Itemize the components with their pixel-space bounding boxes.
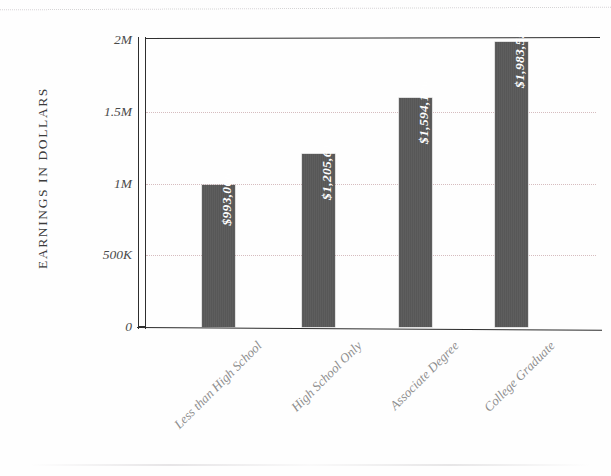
bar-value-wrap: $993,066 — [202, 185, 235, 328]
bar-college-graduate[interactable]: $1,983,554 — [495, 42, 528, 327]
bar-value-wrap: $1,205,617 — [302, 154, 335, 327]
gridline-1500k — [146, 112, 596, 113]
bar-high-school-only[interactable]: $1,205,617 — [302, 154, 335, 327]
bar-value-wrap: $1,983,554 — [495, 42, 528, 327]
bar-value-label: $1,594,126 — [416, 80, 432, 144]
page-scan-smudge — [30, 464, 590, 466]
bar-value-label: $1,205,617 — [319, 136, 335, 200]
y-axis-tick-labels: 2M 1.5M 1M 500K 0 — [42, 40, 132, 327]
bar-value-label: $1,983,554 — [512, 24, 528, 88]
y-tick-label: 1M — [52, 176, 132, 192]
bar-associate-degree[interactable]: $1,594,126 — [399, 98, 432, 327]
plot-area: $993,066 $1,205,617 $1,594,126 $1,983,55… — [146, 40, 596, 327]
y-tick-label: 2M — [52, 32, 132, 48]
y-tick-label: 1.5M — [52, 104, 132, 120]
x-axis-tick-labels: Less than High School High School Only A… — [0, 330, 611, 450]
bar-value-wrap: $1,594,126 — [399, 98, 432, 327]
plot-top-border — [145, 37, 600, 39]
bar-chart-figure: EARNINGS IN DOLLARS 2M 1.5M 1M 500K 0 $9… — [0, 0, 611, 476]
bar-value-label: $993,066 — [219, 172, 235, 225]
page-scan-rule — [0, 7, 611, 12]
bar-less-than-high-school[interactable]: $993,066 — [202, 185, 235, 328]
y-tick-label: 500K — [52, 247, 132, 263]
x-tick-label-less-than-high-school: Less than High School — [49, 338, 265, 476]
y-axis-line-outer — [138, 37, 139, 329]
